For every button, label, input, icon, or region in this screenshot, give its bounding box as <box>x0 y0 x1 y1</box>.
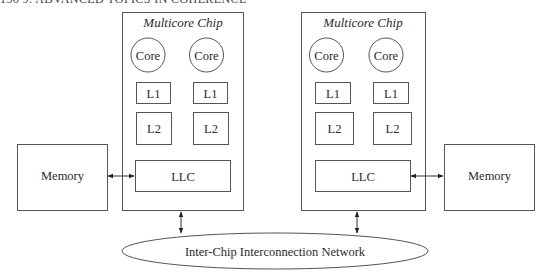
l1-left-2-label: L1 <box>204 87 218 101</box>
l2-left-1-label: L2 <box>147 122 161 136</box>
chip-right-title: Multicore Chip <box>322 15 403 30</box>
l2-right-2-label: L2 <box>386 122 400 136</box>
memory-left-label: Memory <box>41 169 85 183</box>
memory-right-label: Memory <box>468 169 512 183</box>
chip-left: Multicore Chip Core Core L1 L1 L2 L2 LLC <box>123 13 244 211</box>
core-right-1-label: Core <box>314 49 339 63</box>
network-label: Inter-Chip Interconnection Network <box>185 245 366 259</box>
chip-right: Multicore Chip Core Core L1 L1 L2 L2 LLC <box>302 13 426 211</box>
core-left-1-label: Core <box>136 49 161 63</box>
l1-right-2-label: L1 <box>384 87 398 101</box>
llc-left-label: LLC <box>171 170 195 184</box>
l2-right-1-label: L2 <box>328 122 342 136</box>
llc-right-label: LLC <box>351 170 375 184</box>
chip-left-title: Multicore Chip <box>142 15 223 30</box>
multicore-diagram: Multicore Chip Core Core L1 L1 L2 L2 LLC… <box>0 0 541 276</box>
core-left-2-label: Core <box>194 49 219 63</box>
l1-right-1-label: L1 <box>326 87 340 101</box>
core-right-2-label: Core <box>374 49 399 63</box>
l1-left-1-label: L1 <box>147 87 161 101</box>
l2-left-2-label: L2 <box>204 122 218 136</box>
